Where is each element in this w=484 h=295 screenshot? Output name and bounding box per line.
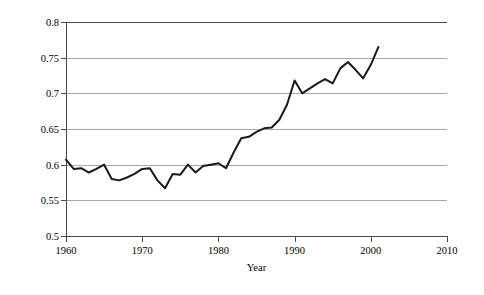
y-tick-label-0-65: 0.65 xyxy=(41,124,59,135)
x-axis-title-label: Year xyxy=(247,262,266,273)
x-tick-1980 xyxy=(218,236,219,242)
x-tick-1990 xyxy=(295,236,296,242)
x-tick-label-1980: 1980 xyxy=(208,245,229,256)
x-tick-label-1960: 1960 xyxy=(56,245,77,256)
x-tick-2000 xyxy=(371,236,372,242)
y-tick-label-0-6: 0.6 xyxy=(46,159,59,170)
y-tick-label-0-7: 0.7 xyxy=(46,88,59,99)
x-axis-line xyxy=(66,236,447,237)
y-tick-label-0-8: 0.8 xyxy=(46,17,59,28)
y-tick-label-0-5: 0.5 xyxy=(46,231,59,242)
x-tick-1960 xyxy=(66,236,67,242)
x-tick-label-1990: 1990 xyxy=(284,245,305,256)
x-tick-label-2000: 2000 xyxy=(360,245,381,256)
x-tick-2010 xyxy=(447,236,448,242)
y-tick-label-0-55: 0.55 xyxy=(41,195,59,206)
data-line-series xyxy=(66,22,447,236)
x-tick-label-1970: 1970 xyxy=(132,245,153,256)
y-axis-title: Female-Male Earnings Ratio xyxy=(0,0,22,295)
x-tick-1970 xyxy=(142,236,143,242)
chart-container: Female-Male Earnings Ratio 0.50.550.60.6… xyxy=(0,0,484,295)
earnings-ratio-line xyxy=(66,47,378,188)
x-tick-label-2010: 2010 xyxy=(437,245,458,256)
plot-area: 0.50.550.60.650.70.750.8 196019701980199… xyxy=(66,22,447,236)
y-tick-label-0-75: 0.75 xyxy=(41,52,59,63)
x-axis-title: Year xyxy=(66,262,447,273)
